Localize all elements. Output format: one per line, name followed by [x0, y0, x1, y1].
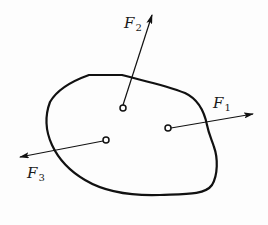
- label-f3-subscript: 3: [38, 172, 44, 183]
- application-point-f1: [165, 125, 171, 131]
- force-diagram: F2 F1 F3: [0, 0, 268, 225]
- application-point-f2: [120, 105, 126, 111]
- application-point-f3: [103, 137, 109, 143]
- label-f2-subscript: 2: [135, 22, 141, 33]
- label-f1-subscript: 1: [224, 102, 230, 113]
- force-f3-arrow: [20, 141, 103, 157]
- force-f1-arrow: [171, 114, 253, 128]
- label-f3-symbol: F: [27, 164, 37, 182]
- label-f1-symbol: F: [213, 94, 223, 112]
- rigid-body-outline: [46, 75, 216, 195]
- label-f2: F2: [124, 16, 142, 33]
- label-f1: F1: [213, 96, 231, 113]
- label-f2-symbol: F: [124, 14, 134, 32]
- label-f3: F3: [27, 166, 45, 183]
